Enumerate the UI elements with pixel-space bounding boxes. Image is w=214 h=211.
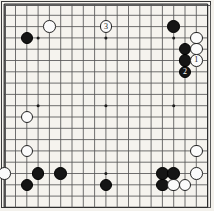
star-point — [37, 36, 40, 39]
stone-black — [21, 179, 34, 192]
stone-black-move-2: 2 — [179, 66, 192, 79]
stone-black — [167, 167, 180, 180]
stone-white — [190, 145, 203, 158]
stone-white-move-3: 3 — [100, 20, 113, 33]
stone-black — [167, 20, 180, 33]
move-number: 3 — [101, 21, 112, 32]
star-point — [172, 104, 175, 107]
stone-white — [190, 167, 203, 180]
star-point — [37, 104, 40, 107]
stone-black — [54, 167, 67, 180]
star-point — [104, 172, 107, 175]
move-number: 2 — [180, 67, 191, 78]
star-point — [104, 36, 107, 39]
stone-white — [43, 20, 56, 33]
stone-white-move-1: 1 — [190, 54, 203, 67]
stone-white — [0, 167, 11, 180]
star-point — [172, 36, 175, 39]
move-number: 1 — [191, 55, 202, 66]
star-point — [104, 104, 107, 107]
go-diagram: 312 — [0, 0, 214, 211]
stone-black — [32, 167, 45, 180]
